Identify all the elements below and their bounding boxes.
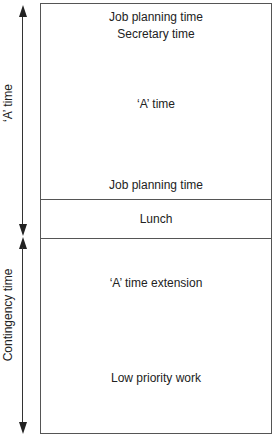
job-planning-time-top-label: Job planning time — [40, 10, 272, 24]
job-planning-time-bottom-label: Job planning time — [40, 178, 272, 192]
arrow-down-icon — [19, 422, 27, 434]
arrow-up-icon — [19, 5, 27, 17]
a-time-axis-label: ‘A’ time — [1, 73, 15, 133]
secretary-time-label: Secretary time — [40, 27, 272, 41]
lunch-top-divider — [40, 199, 272, 200]
lunch-label: Lunch — [40, 212, 272, 226]
contingency-axis-label: Contingency time — [1, 265, 15, 365]
contingency-axis-line — [22, 247, 23, 425]
low-priority-work-label: Low priority work — [40, 371, 272, 385]
a-time-label: ‘A’ time — [40, 97, 272, 111]
a-time-axis-line — [22, 14, 23, 232]
a-time-extension-label: ‘A’ time extension — [40, 276, 272, 290]
arrow-down-icon — [19, 224, 27, 236]
lunch-bottom-divider — [40, 238, 272, 239]
